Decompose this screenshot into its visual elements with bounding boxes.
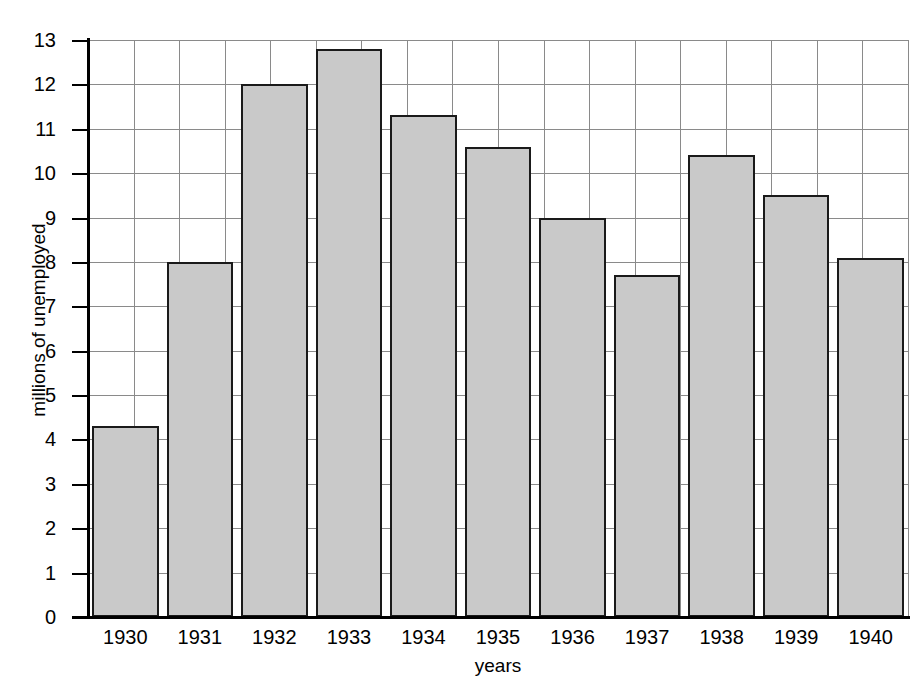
x-axis-tick-label: 1933 [312, 624, 387, 650]
y-axis-line [87, 38, 90, 619]
bar-chart: millions of unemployed 01234567891011121… [0, 0, 923, 684]
y-axis-tick-mark [72, 40, 88, 42]
y-axis-tick-mark [72, 218, 88, 220]
y-axis-tick-mark [72, 395, 88, 397]
y-axis-tick-mark [72, 129, 88, 131]
bar [465, 147, 532, 617]
bar [390, 115, 457, 617]
bar [688, 155, 755, 617]
bar [837, 258, 904, 618]
y-axis-tick-mark [72, 439, 88, 441]
bar [316, 49, 383, 617]
x-axis-line [72, 616, 910, 619]
y-axis-tick-mark [72, 351, 88, 353]
y-axis-tick-mark [72, 573, 88, 575]
x-axis-tick-label: 1939 [759, 624, 834, 650]
bar [539, 218, 606, 617]
y-axis-tick-mark [72, 528, 88, 530]
x-axis-tick-label: 1937 [610, 624, 685, 650]
bar [167, 262, 234, 617]
x-axis-tick-label: 1932 [237, 624, 312, 650]
x-axis-tick-labels: 1930193119321933193419351936193719381939… [88, 624, 908, 652]
bars-layer [88, 40, 908, 617]
x-axis-tick-label: 1936 [535, 624, 610, 650]
y-axis-tick-mark [72, 84, 88, 86]
y-axis-tick-mark [72, 306, 88, 308]
x-axis-tick-label: 1931 [163, 624, 238, 650]
x-axis-title: years [88, 655, 908, 677]
x-axis-tick-label: 1934 [386, 624, 461, 650]
y-axis-tick-mark [72, 484, 88, 486]
bar [763, 195, 830, 617]
bar [241, 84, 308, 617]
x-axis-tick-label: 1930 [88, 624, 163, 650]
y-axis-tick-mark [72, 262, 88, 264]
x-axis-tick-label: 1935 [461, 624, 536, 650]
bar [614, 275, 681, 617]
x-axis-tick-label: 1938 [684, 624, 759, 650]
x-axis-tick-label: 1940 [833, 624, 908, 650]
y-axis-tick-mark [72, 173, 88, 175]
gridline-vertical [908, 40, 909, 617]
bar [92, 426, 159, 617]
